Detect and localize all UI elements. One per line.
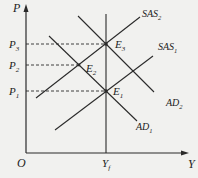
- e2-label: E2: [85, 62, 97, 77]
- ad1-label: AD1: [135, 121, 153, 134]
- price-guides: [26, 44, 106, 91]
- ad2-label: AD2: [165, 97, 183, 110]
- origin-label: O: [17, 156, 26, 170]
- yf-label: Yf: [102, 157, 111, 172]
- e3-label: E3: [114, 38, 126, 53]
- sas2-curve: [36, 17, 140, 98]
- e3-point: [104, 42, 108, 46]
- p2-label: P2: [8, 59, 20, 74]
- p1-label: P1: [8, 85, 19, 100]
- e2-point: [78, 64, 81, 67]
- sas1-curve: [55, 56, 153, 130]
- x-axis-label: Y: [188, 157, 196, 171]
- p3-label: P3: [8, 38, 20, 53]
- sas1-label: SAS1: [158, 41, 177, 54]
- e1-point: [104, 89, 108, 93]
- axes: [26, 10, 183, 153]
- ad2-curve: [78, 16, 154, 92]
- ad-sas-diagram: P Y O P3 P2 P1 Yf SAS2 SAS1 AD2: [0, 0, 198, 178]
- x-axis-arrow-icon: [181, 151, 189, 156]
- y-axis-label: P: [12, 1, 21, 15]
- y-axis-arrow-icon: [24, 4, 29, 12]
- sas2-label: SAS2: [142, 8, 162, 21]
